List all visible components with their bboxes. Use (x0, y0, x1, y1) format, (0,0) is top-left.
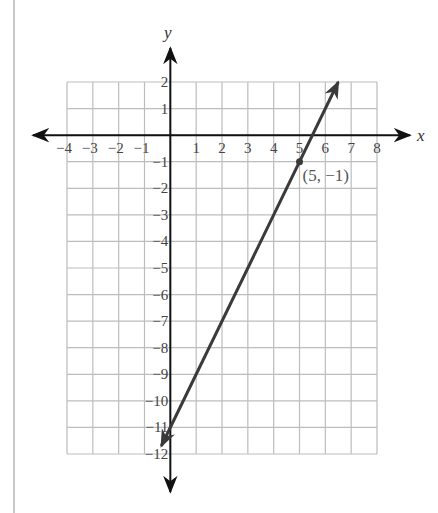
x-tick-label: 3 (244, 140, 252, 156)
x-tick-label: 7 (347, 140, 355, 156)
y-tick-label: 1 (161, 101, 169, 117)
grid (67, 82, 377, 454)
x-tick-label: −4 (56, 140, 72, 156)
line-y-equals-2x-minus-11 (161, 82, 338, 446)
y-tick-label: −5 (152, 260, 168, 276)
y-tick-label: −2 (152, 180, 168, 196)
x-tick-label: 8 (373, 140, 381, 156)
y-tick-label: −7 (152, 313, 168, 329)
x-tick-label: −1 (134, 140, 150, 156)
y-tick-label: −12 (145, 446, 168, 462)
y-tick-label: −4 (152, 233, 168, 249)
y-tick-label: −6 (152, 287, 168, 303)
y-tick-label: −1 (152, 154, 168, 170)
y-tick-label: −10 (145, 393, 168, 409)
y-tick-label: −3 (152, 207, 168, 223)
x-axis-label: x (416, 126, 425, 145)
y-tick-label: −9 (152, 366, 168, 382)
x-tick-label: 4 (270, 140, 278, 156)
y-tick-label: −8 (152, 340, 168, 356)
x-tick-label: −2 (108, 140, 124, 156)
point-marker (296, 158, 303, 165)
y-axis-label: y (162, 23, 172, 42)
y-tick-label: 2 (161, 74, 169, 90)
plotted-line (161, 82, 338, 446)
y-tick-label: −11 (145, 419, 168, 435)
x-tick-label: −3 (82, 140, 98, 156)
point-label: (5, −1) (303, 166, 349, 185)
coordinate-plane: −4−3−2−11234567821−1−2−3−4−5−6−7−8−9−10−… (0, 0, 438, 513)
x-tick-label: 1 (192, 140, 200, 156)
x-tick-label: 2 (218, 140, 226, 156)
x-tick-label: 6 (322, 140, 330, 156)
